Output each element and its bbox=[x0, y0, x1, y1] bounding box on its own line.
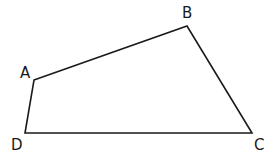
vertex-label-c: C bbox=[254, 136, 264, 154]
vertex-label-a: A bbox=[20, 64, 31, 82]
quadrilateral-abcd bbox=[25, 26, 252, 133]
quadrilateral-diagram: A B C D bbox=[0, 0, 277, 159]
vertex-label-d: D bbox=[11, 136, 23, 154]
vertex-label-b: B bbox=[182, 4, 192, 22]
